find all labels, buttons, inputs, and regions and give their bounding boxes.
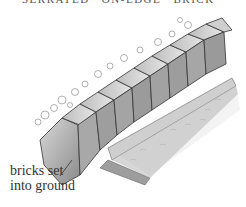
- annotation-label: bricks set into ground: [10, 163, 75, 193]
- annotation-line-1: bricks set: [10, 163, 75, 178]
- annotation-line-2: into ground: [10, 178, 75, 193]
